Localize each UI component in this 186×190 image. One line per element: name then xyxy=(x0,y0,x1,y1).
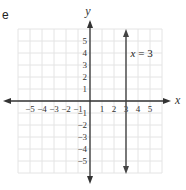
y-axis-label: y xyxy=(84,4,91,18)
y-tick-label: −3 xyxy=(77,132,87,142)
x-tick-label: 5 xyxy=(148,104,153,114)
x-tick-label: 2 xyxy=(112,104,117,114)
x-tick-label: −4 xyxy=(37,104,47,114)
y-tick-label: 2 xyxy=(83,72,88,82)
y-tick-label: 3 xyxy=(83,60,88,70)
y-tick-label: 4 xyxy=(83,48,88,58)
x-tick-label: 4 xyxy=(136,104,141,114)
x-tick-label: 1 xyxy=(100,104,105,114)
line-up-arrow-icon xyxy=(123,29,129,37)
y-tick-label: −5 xyxy=(77,156,87,166)
y-axis-down-arrow-icon xyxy=(87,176,93,184)
coordinate-plane: xy −5−4−3−2−11234554321−1−2−3−4−5 x = 3 xyxy=(0,0,186,190)
x-tick-label: −3 xyxy=(49,104,59,114)
y-tick-label: −2 xyxy=(77,120,87,130)
annotations: x = 3 xyxy=(130,47,154,59)
x-axis-right-arrow-icon xyxy=(163,98,171,104)
y-tick-label: −1 xyxy=(77,108,87,118)
y-tick-label: 5 xyxy=(83,36,88,46)
x-axis-left-arrow-icon xyxy=(3,98,11,104)
x-axis-label: x xyxy=(174,93,181,107)
x-tick-label: −5 xyxy=(25,104,35,114)
line-equation-label: x = 3 xyxy=(130,47,154,59)
y-axis-up-arrow-icon xyxy=(87,20,93,28)
x-tick-label: −2 xyxy=(61,104,71,114)
y-tick-label: −4 xyxy=(77,144,87,154)
y-tick-label: 1 xyxy=(83,84,88,94)
